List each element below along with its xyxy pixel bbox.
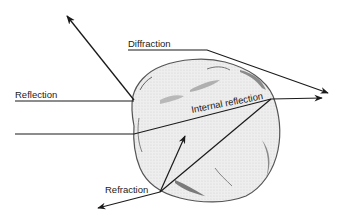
reflection-label: Reflection xyxy=(15,89,57,100)
particle xyxy=(132,59,280,202)
light-scattering-diagram: Reflection Diffraction Internal reflecti… xyxy=(0,0,340,221)
diffraction-label: Diffraction xyxy=(128,38,171,49)
refraction-label: Refraction xyxy=(105,184,148,195)
